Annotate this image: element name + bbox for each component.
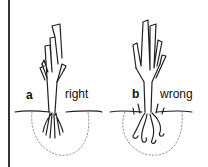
panel-a-caption: right (65, 88, 88, 100)
panel-a-letter: a (26, 89, 33, 101)
panel-b-caption: wrong (160, 88, 193, 100)
transplanting-diagram (0, 0, 208, 167)
panel-b-letter: b (132, 88, 139, 100)
